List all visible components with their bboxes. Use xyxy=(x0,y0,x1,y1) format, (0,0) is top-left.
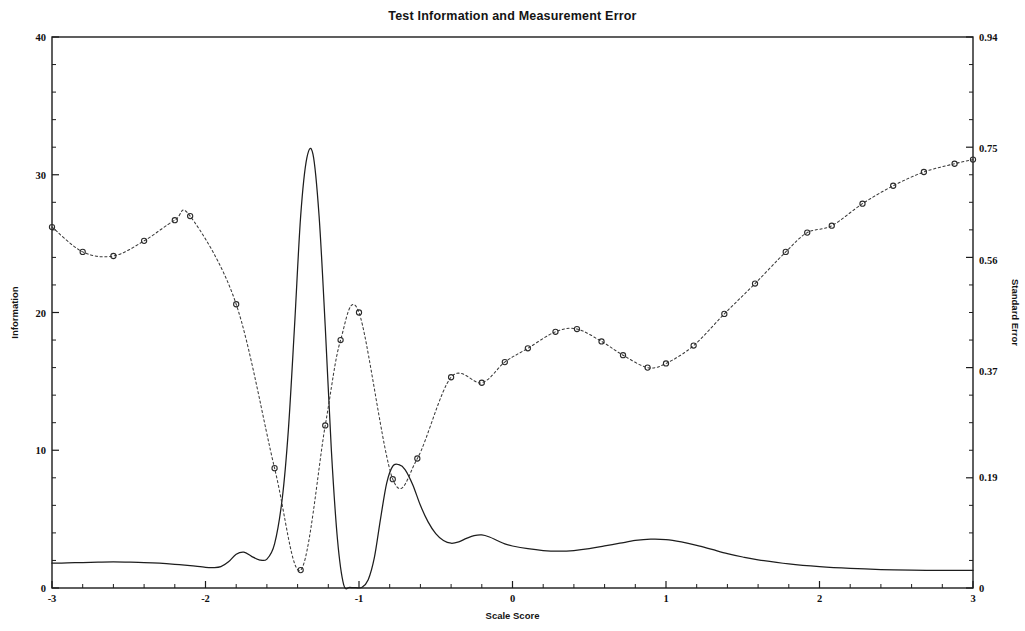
y2-axis-tick-label: 0.37 xyxy=(979,366,997,377)
standard-error-marker xyxy=(525,346,530,351)
plot-frame xyxy=(52,37,973,588)
y-axis-tick-label: 30 xyxy=(36,170,47,181)
chart-plot-area: 010203040Information00.190.370.560.750.9… xyxy=(0,0,1025,631)
standard-error-marker xyxy=(921,169,926,174)
standard-error-marker xyxy=(356,310,361,315)
y2-axis-tick-label: 0 xyxy=(979,583,984,594)
x-axis-tick-label: 1 xyxy=(663,593,668,604)
x-axis-tick-label: 0 xyxy=(510,593,515,604)
x-axis-title: Scale Score xyxy=(486,610,540,621)
x-axis-tick-label: 3 xyxy=(970,593,975,604)
x-axis-tick-label: 2 xyxy=(817,593,822,604)
standard-error-curve xyxy=(52,160,973,571)
y-axis-tick-label: 10 xyxy=(36,445,47,456)
y2-axis-tick-label: 0.94 xyxy=(979,32,998,43)
x-axis-tick-label: -2 xyxy=(201,593,210,604)
y2-axis-tick-label: 0.19 xyxy=(979,472,997,483)
y2-axis-tick-label: 0.56 xyxy=(979,255,997,266)
chart-page: Test Information and Measurement Error 0… xyxy=(0,0,1025,631)
standard-error-marker xyxy=(891,183,896,188)
y2-axis-title: Standard Error xyxy=(1010,279,1021,346)
y-axis-title: Information xyxy=(9,286,20,338)
y2-axis-tick-label: 0.75 xyxy=(979,143,997,154)
y-axis-tick-label: 40 xyxy=(36,32,47,43)
standard-error-marker xyxy=(829,223,834,228)
standard-error-marker xyxy=(172,218,177,223)
y-axis-tick-label: 20 xyxy=(36,308,47,319)
standard-error-marker xyxy=(691,343,696,348)
standard-error-marker xyxy=(599,339,604,344)
x-axis-tick-label: -3 xyxy=(48,593,57,604)
information-curve xyxy=(52,148,973,588)
x-axis-tick-label: -1 xyxy=(355,593,364,604)
y-axis-tick-label: 0 xyxy=(41,583,46,594)
